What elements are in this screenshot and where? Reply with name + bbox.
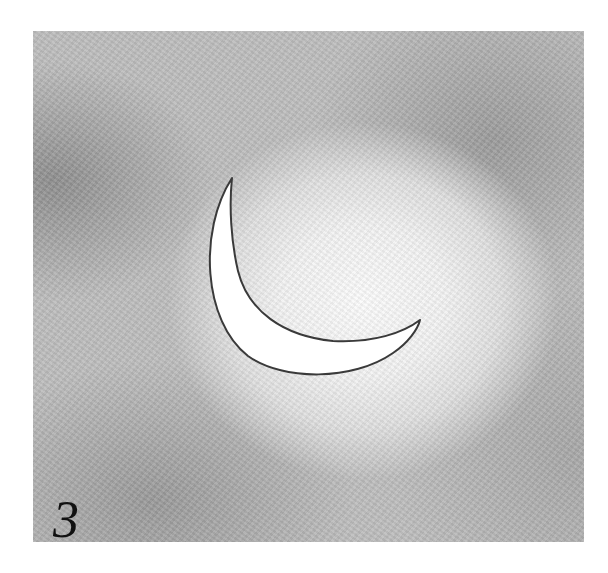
figure-label: 3 [53,494,79,542]
drawing-panel: 3 [33,31,584,542]
crescent-moon-icon [33,31,584,542]
